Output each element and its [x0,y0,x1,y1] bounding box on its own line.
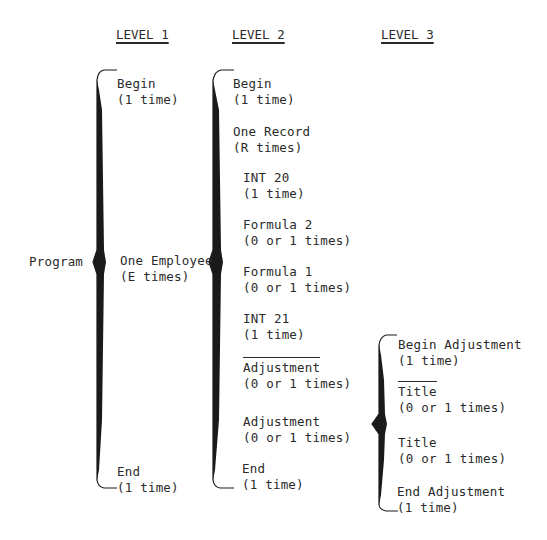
level-2-item-int-20: INT 20 (1 time) [243,170,305,202]
level-2-item-formula-1: Formula 1 (0 or 1 times) [243,264,351,296]
level-3-item-begin-adjustment: Begin Adjustment (1 time) [398,337,522,369]
level-1-item-end: End (1 time) [117,464,179,496]
level-1-item-one-employee-text: One Employee (E times) [120,253,213,285]
level-2-brace [209,70,234,488]
level-1-item-begin: Begin (1 time) [117,76,179,108]
level-2-item-adjustment-not: Adjustment (0 or 1 times) [243,357,351,392]
level-3-item-title-not: Title (0 or 1 times) [398,381,506,416]
level-3-brace [372,335,398,511]
overline-adjustment: Adjustment [243,357,320,376]
level-3-item-end-adjustment: End Adjustment (1 time) [397,484,505,516]
overline-title: Title [398,381,437,400]
level-3-item-title: Title (0 or 1 times) [398,435,506,467]
level-1-brace [93,70,117,488]
level-2-item-formula-2: Formula 2 (0 or 1 times) [243,217,351,249]
level-2-item-adjustment: Adjustment (0 or 1 times) [243,414,351,446]
root-program-label: Program [29,254,83,270]
level-2-item-one-record: One Record (R times) [233,124,310,156]
level-2-item-int-21: INT 21 (1 time) [243,311,305,343]
level-2-item-end: End (1 time) [242,461,304,493]
level-2-item-begin: Begin (1 time) [233,76,295,108]
